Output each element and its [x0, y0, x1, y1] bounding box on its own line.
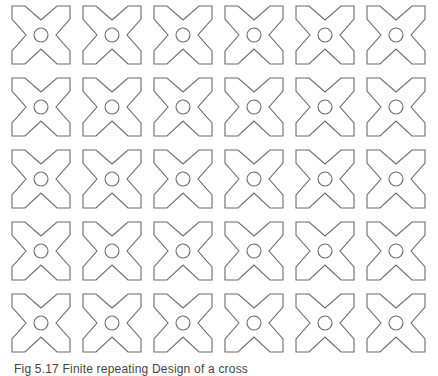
x-cross-tile-icon [367, 150, 425, 208]
x-cross-tile-icon [296, 78, 354, 136]
x-cross-tile-icon [296, 150, 354, 208]
figure-caption: Fig 5.17 Finite repeating Design of a cr… [14, 362, 248, 376]
x-cross-tile-icon [367, 222, 425, 280]
x-cross-tile-icon [12, 150, 70, 208]
x-cross-tile-icon [154, 6, 212, 64]
x-cross-tile-icon [367, 78, 425, 136]
x-cross-tile-icon [12, 222, 70, 280]
x-cross-tile-icon [296, 6, 354, 64]
x-cross-tile-icon [154, 222, 212, 280]
x-cross-tile-icon [12, 294, 70, 352]
x-cross-tile-icon [225, 6, 283, 64]
x-cross-tile-icon [225, 78, 283, 136]
x-cross-tile-icon [83, 78, 141, 136]
x-cross-tile-icon [225, 294, 283, 352]
x-cross-tile-icon [83, 222, 141, 280]
x-cross-tile-icon [83, 294, 141, 352]
x-cross-tile-icon [83, 6, 141, 64]
x-cross-tile-icon [296, 294, 354, 352]
x-cross-tile-icon [154, 150, 212, 208]
x-cross-tile-icon [83, 150, 141, 208]
x-cross-tile-icon [154, 78, 212, 136]
x-cross-tile-icon [367, 294, 425, 352]
x-cross-tile-icon [12, 6, 70, 64]
x-cross-tile-icon [367, 6, 425, 64]
x-cross-tile-icon [12, 78, 70, 136]
x-cross-tile-icon [296, 222, 354, 280]
x-cross-tile-icon [225, 222, 283, 280]
x-cross-tile-icon [225, 150, 283, 208]
tile-pattern-grid [0, 0, 438, 360]
x-cross-tile-icon [154, 294, 212, 352]
